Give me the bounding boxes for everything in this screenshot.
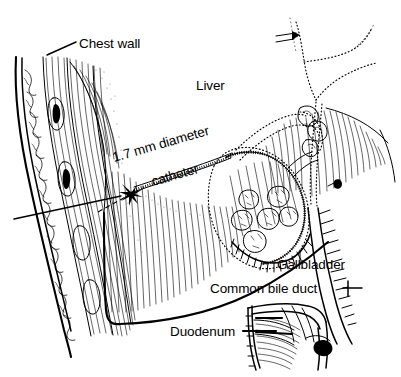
anatomy-line-drawing: Percutaneous transhepatic cholecystostom… bbox=[0, 0, 401, 377]
medical-illustration-figure: Percutaneous transhepatic cholecystostom… bbox=[0, 0, 401, 377]
label-liver: Liver bbox=[196, 78, 225, 93]
label-chest-wall: Chest wall bbox=[79, 36, 140, 51]
label-duodenum: Duodenum bbox=[170, 324, 235, 339]
label-gallbladder: Gallbladder bbox=[277, 257, 346, 272]
label-common-bile-duct: Common bile duct bbox=[210, 281, 318, 296]
